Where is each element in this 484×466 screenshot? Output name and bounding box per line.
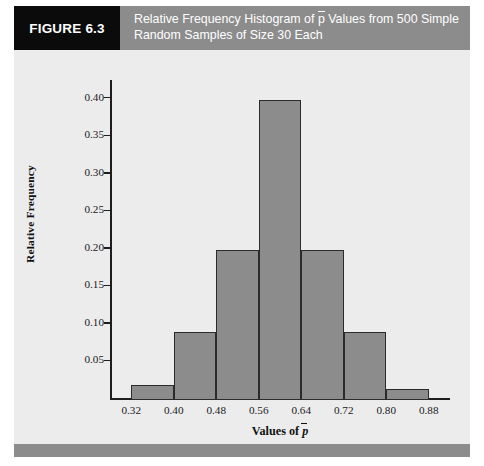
plot-panel: Relative Frequency 0.050.100.150.200.250… (14, 50, 470, 444)
histogram-bar (216, 250, 259, 400)
figure-root: FIGURE 6.3 Relative Frequency Histogram … (0, 0, 484, 466)
x-axis-p-bar-symbol: p (302, 424, 308, 439)
y-axis-tick-label: 0.35 (70, 128, 104, 140)
p-bar-symbol: p (318, 12, 325, 28)
histogram-bar (174, 332, 217, 400)
y-axis-tick-label-wrap: 0.30 (60, 173, 104, 174)
y-axis-tick-label-wrap: 0.35 (60, 135, 104, 136)
y-axis-tick-label-wrap: 0.10 (60, 323, 104, 324)
caption-line2: Random Samples of Size 30 Each (134, 28, 323, 42)
y-axis-tick-label-wrap: 0.25 (60, 210, 104, 211)
y-axis-tick-label: 0.15 (70, 278, 104, 290)
y-axis-tick-label: 0.20 (70, 241, 104, 253)
histogram-bar (131, 385, 174, 400)
y-axis-title: Relative Frequency (24, 134, 36, 294)
histogram-bar (259, 100, 302, 400)
histogram-bars (110, 50, 450, 444)
y-axis-tick-label: 0.30 (70, 166, 104, 178)
y-axis-tick-label: 0.40 (70, 91, 104, 103)
histogram-bar (386, 389, 429, 400)
y-axis-tick-label-wrap: 0.05 (60, 360, 104, 361)
figure-caption-text: Relative Frequency Histogram of p Values… (120, 6, 470, 50)
figure-bottom-rule (14, 444, 470, 457)
y-axis-tick-label-wrap: 0.40 (60, 98, 104, 99)
figure-caption-bar: FIGURE 6.3 Relative Frequency Histogram … (14, 6, 470, 50)
caption-line1-pre: Relative Frequency Histogram of (134, 12, 318, 26)
histogram-bar (301, 250, 344, 400)
histogram-bar (344, 332, 387, 400)
caption-line1-post: Values from 500 Simple (325, 12, 459, 26)
x-axis-title: Values of p (110, 424, 450, 439)
y-axis-tick-label: 0.10 (70, 316, 104, 328)
y-axis-tick-label-wrap: 0.20 (60, 248, 104, 249)
y-axis-tick-label: 0.05 (70, 353, 104, 365)
chart-axes: Relative Frequency 0.050.100.150.200.250… (14, 50, 470, 444)
y-axis-tick-label-wrap: 0.15 (60, 285, 104, 286)
figure-number-tag: FIGURE 6.3 (14, 6, 120, 50)
y-axis-tick-label: 0.25 (70, 203, 104, 215)
